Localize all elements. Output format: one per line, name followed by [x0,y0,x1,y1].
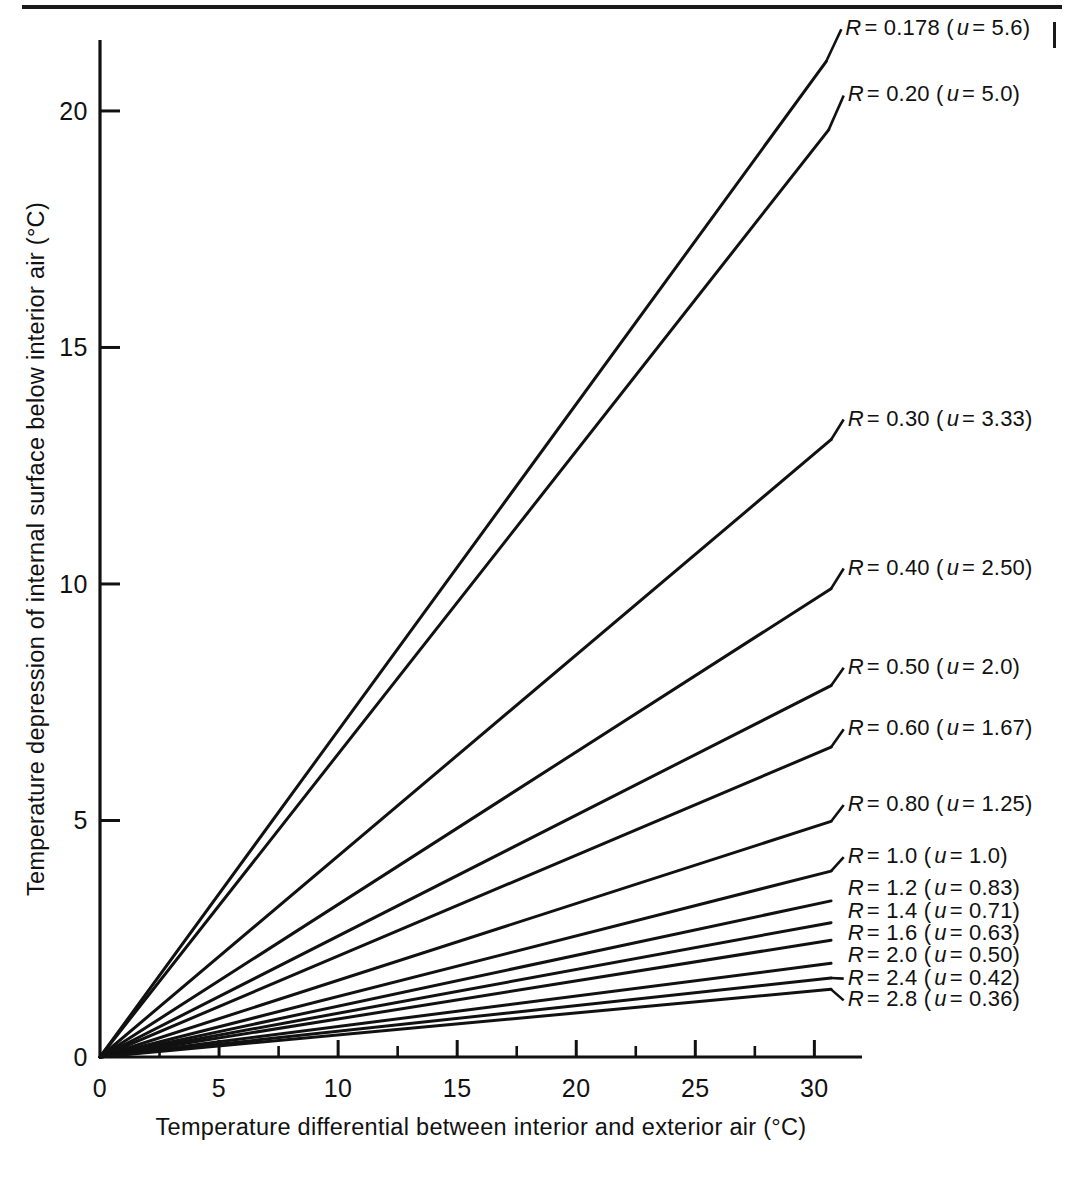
series-label-leader [831,989,844,1000]
x-axis-tick-labels: 051015202530 [93,1074,829,1102]
series-label-leader [831,668,844,686]
y-axis-tick-label: 0 [74,1043,88,1071]
series-line [100,61,826,1057]
x-axis-tick-label: 10 [324,1074,353,1102]
x-axis-tick-label: 30 [800,1074,829,1102]
series-label-leader [831,729,844,747]
y-axis-tick-label: 20 [59,97,88,125]
series-label: R= 2.8 (u= 0.36) [848,986,1020,1011]
series-label: R= 0.30 (u= 3.33) [848,406,1033,431]
series-label-leader [829,95,844,129]
x-axis-tick-label: 15 [443,1074,472,1102]
series-label-leader [831,420,844,440]
x-axis-title: Temperature differential between interio… [156,1114,807,1140]
series-label-leader [831,978,844,979]
series-label-leader [831,569,844,589]
series-line [100,686,831,1057]
figure-page: 051015202530 05101520 R= 0.178 (u= 5.6)R… [0,0,1068,1179]
y-axis-tick-labels: 05101520 [59,97,88,1071]
series-line [100,821,831,1057]
series-label-leader [826,29,841,61]
x-axis-tick-label: 5 [212,1074,226,1102]
chart-series-lines [100,29,844,1057]
series-label: R= 0.178 (u= 5.6) [845,15,1030,40]
y-axis-tick-label: 15 [59,333,88,361]
x-axis-tick-label: 20 [562,1074,591,1102]
y-axis-tick-label: 5 [74,806,88,834]
series-label: R= 1.6 (u= 0.63) [848,920,1020,945]
chart-series-labels: R= 0.178 (u= 5.6)R= 0.20 (u= 5.0)R= 0.30… [845,15,1032,1011]
series-label: R= 0.20 (u= 5.0) [848,81,1020,106]
x-axis-tick-label: 0 [93,1074,107,1102]
y-axis-tick-label: 10 [59,570,88,598]
chart-axes [100,40,862,1057]
series-line [100,130,829,1057]
series-line [100,589,831,1057]
series-label: R= 1.0 (u= 1.0) [848,843,1008,868]
series-label: R= 0.50 (u= 2.0) [848,654,1020,679]
temperature-depression-chart: 051015202530 05101520 R= 0.178 (u= 5.6)R… [0,0,1068,1179]
series-label: R= 0.40 (u= 2.50) [848,555,1033,580]
y-axis-ticks [100,111,120,821]
series-line [100,901,831,1057]
series-label-leader [831,857,844,871]
series-label: R= 1.2 (u= 0.83) [848,875,1020,900]
series-label-leader [831,805,844,821]
x-axis-tick-label: 25 [681,1074,710,1102]
series-label: R= 0.80 (u= 1.25) [848,791,1033,816]
series-label: R= 0.60 (u= 1.67) [848,715,1033,740]
y-axis-title: Temperature depression of internal surfa… [23,202,49,896]
